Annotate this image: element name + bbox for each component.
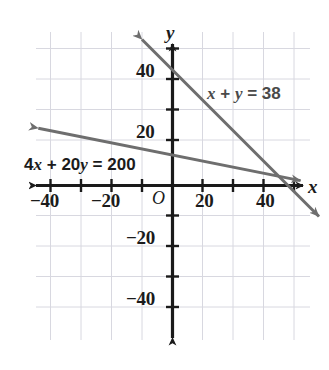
equation-2-plus: +: [47, 155, 57, 174]
x-axis-label: x: [308, 176, 318, 198]
x-tick-label--20: −20: [91, 190, 120, 212]
equation-2-var-y: y: [80, 155, 88, 174]
y-tick-label-40: 40: [136, 60, 154, 82]
y-tick-label-20: 20: [136, 121, 154, 143]
equation-1-var-x: x: [207, 84, 216, 103]
x-tick-label-20: 20: [195, 190, 213, 212]
graph-figure: −40 −20 20 40 40 20 −20 −40 O x y x + y …: [0, 0, 329, 370]
origin-label: O: [152, 188, 165, 209]
y-tick-label--40: −40: [126, 288, 155, 310]
equation-2-equals: =: [93, 155, 103, 174]
equation-1-rhs: 38: [262, 84, 281, 103]
equation-label-x-plus-y-equals-38: x + y = 38: [207, 84, 281, 104]
equation-1-plus: +: [220, 84, 230, 103]
y-axis-label: y: [166, 22, 174, 44]
line-x-plus-y-equals-38: [142, 40, 319, 217]
equation-label-4x-plus-20y-equals-200: 4x + 20y = 200: [24, 155, 136, 175]
x-tick-label--40: −40: [30, 190, 59, 212]
equation-2-var-x: x: [33, 155, 42, 174]
coordinate-plane: [0, 0, 329, 370]
equation-1-var-y: y: [235, 84, 243, 103]
y-tick-label--20: −20: [126, 227, 155, 249]
equation-2-coef-b: 20: [61, 155, 80, 174]
x-tick-label-40: 40: [256, 190, 274, 212]
equation-1-equals: =: [247, 84, 257, 103]
equation-2-rhs: 200: [107, 155, 135, 174]
